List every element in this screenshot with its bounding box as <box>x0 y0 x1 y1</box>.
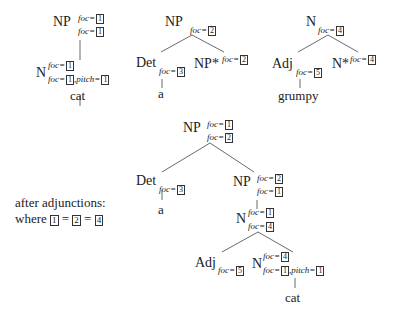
tag-box: 3 <box>177 185 185 195</box>
n-bottom-feature: foc=4 <box>248 222 274 232</box>
n-node: N <box>236 212 246 226</box>
word-a: a <box>158 86 164 102</box>
tag-box: 2 <box>240 55 248 65</box>
np-top-feature: foc=1 <box>78 14 104 24</box>
tag-box: 5 <box>236 266 244 276</box>
np-foot-node: NP* <box>194 57 219 71</box>
np-node: NP <box>53 15 71 29</box>
tag-box: 4 <box>95 215 104 226</box>
det-node: Det <box>136 56 156 70</box>
note-line1: after adjunctions: <box>15 195 106 211</box>
det-bottom-feature: foc=3 <box>159 67 185 77</box>
tag-box: 4 <box>281 252 289 262</box>
note-line2: where 1 = 2 = 4 <box>15 211 106 227</box>
np-root-top-feature: foc=1 <box>207 120 233 130</box>
tag-box: 5 <box>314 68 322 78</box>
n-foot-top-feature: foc=4 <box>350 55 376 65</box>
n-top-feature: foc=1 <box>248 208 274 218</box>
np-node: NP <box>233 175 251 189</box>
tag-box: 1 <box>66 75 74 85</box>
tag-box: 1 <box>281 266 289 276</box>
np-top-feature: foc=2 <box>257 174 283 184</box>
n-bottom-feature: foc=4 <box>318 26 344 36</box>
n-leaf-top-feature: foc=4 <box>263 252 289 262</box>
word-a: a <box>158 202 164 218</box>
tag-box: 4 <box>266 222 274 232</box>
np-node: NP <box>165 15 183 29</box>
tag-box: 1 <box>101 75 109 85</box>
tag-box: 2 <box>72 215 81 226</box>
np-foot-top-feature: foc=2 <box>222 55 248 65</box>
tag-box: 1 <box>225 120 233 130</box>
word-grumpy: grumpy <box>278 88 318 104</box>
np-root-node: NP <box>183 121 201 135</box>
tag-box: 1 <box>50 215 59 226</box>
tag-box: 2 <box>225 133 233 143</box>
tag-box: 1 <box>96 27 104 37</box>
tag-box: 2 <box>275 174 283 184</box>
det-bottom-feature: foc=3 <box>159 185 185 195</box>
tag-box: 4 <box>368 55 376 65</box>
adj-bottom-feature: foc=5 <box>296 68 322 78</box>
word-cat: cat <box>70 88 85 104</box>
n-foot-node: N* <box>332 57 349 71</box>
np-bottom-feature: foc=1 <box>78 27 104 37</box>
adj-node: Adj <box>195 256 216 270</box>
np-bottom-feature: foc=1 <box>257 187 283 197</box>
n-node: N <box>36 66 46 80</box>
np-bottom-feature: foc=2 <box>190 26 216 36</box>
tag-box: 1 <box>96 14 104 24</box>
n-leaf-node: N <box>252 257 262 271</box>
tag-box: 1 <box>316 266 324 276</box>
tag-box: 2 <box>208 26 216 36</box>
adj-node: Adj <box>272 57 293 71</box>
tag-box: 3 <box>177 67 185 77</box>
n-node: N <box>306 15 316 29</box>
tag-box: 1 <box>66 61 74 71</box>
n-top-feature: foc=1 <box>48 61 74 71</box>
adjunction-note: after adjunctions: where 1 = 2 = 4 <box>15 195 106 227</box>
n-bottom-feature: foc=1,pitch=1 <box>48 75 109 85</box>
adj-bottom-feature: foc=5 <box>218 266 244 276</box>
tag-box: 1 <box>266 208 274 218</box>
tag-box: 4 <box>336 26 344 36</box>
word-cat: cat <box>285 290 300 306</box>
det-node: Det <box>136 174 156 188</box>
n-leaf-bottom-feature: foc=1,pitch=1 <box>263 266 324 276</box>
tag-box: 1 <box>275 187 283 197</box>
np-root-bottom-feature: foc=2 <box>207 133 233 143</box>
